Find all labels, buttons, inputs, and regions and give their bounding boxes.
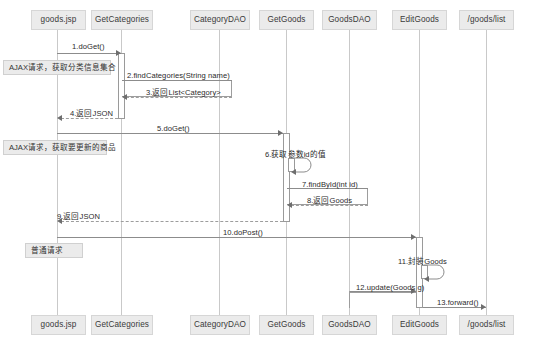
note-normal-request: 普通请求: [25, 243, 83, 258]
message-label-10: 10.doPost(): [223, 228, 263, 237]
message-label-5: 5.doGet(): [157, 124, 190, 133]
message-12-stem: [349, 291, 350, 308]
message-label-8: 8.返回Goods: [307, 196, 352, 205]
lifeline-goods-dao: [349, 30, 350, 315]
message-label-1: 1.doGet(): [72, 42, 105, 51]
participant-label: goods.jsp: [41, 320, 77, 330]
participant-label: /goods/list: [468, 15, 506, 25]
message-label-4: 4.返回JSON: [70, 109, 113, 118]
message-label-7: 7.findById(int id): [302, 180, 358, 189]
message-line-1: [57, 53, 121, 54]
note-label: AJAX请求，获取要更新的商品: [9, 142, 116, 153]
participant-footer-get-goods[interactable]: GetGoods: [259, 315, 314, 335]
message-label-12: 12.update(Goods g): [356, 283, 424, 292]
participant-label: /goods/list: [468, 320, 506, 330]
message-line-4: [61, 118, 118, 119]
message-arrow-13: [481, 304, 486, 310]
message-line-5: [57, 133, 283, 134]
participant-header-goods-dao[interactable]: GoodsDAO: [322, 10, 377, 30]
participant-header-goods-list[interactable]: /goods/list: [459, 10, 514, 30]
activation-get-goods: [283, 133, 290, 222]
lifeline-goods-list: [486, 30, 487, 315]
message-label-2: 2.findCategories(String name): [127, 71, 230, 80]
participant-label: EditGoods: [400, 15, 439, 25]
participant-footer-get-categories[interactable]: GetCategories: [91, 315, 153, 335]
note-label: 普通请求: [31, 245, 63, 256]
participant-header-goods-jsp[interactable]: goods.jsp: [31, 10, 86, 30]
message-label-11: 11.封装Goods: [398, 257, 447, 266]
participant-header-edit-goods[interactable]: EditGoods: [392, 10, 447, 30]
message-arrow-10: [411, 234, 416, 240]
participant-label: EditGoods: [400, 320, 439, 330]
participant-header-category-dao[interactable]: CategoryDAO: [190, 10, 250, 30]
message-line-9: [61, 221, 283, 222]
message-label-13: 13.forward(): [437, 298, 479, 307]
participant-label: CategoryDAO: [194, 15, 246, 25]
message-arrow-1: [116, 50, 121, 56]
participant-label: GoodsDAO: [328, 15, 371, 25]
message-arrow-5: [278, 130, 283, 136]
note-ajax-categories: AJAX请求，获取分类信息集合: [3, 60, 111, 75]
message-arrow-3: [122, 94, 127, 100]
message-label-3: 3.返回List<Category>: [146, 88, 221, 97]
participant-label: GetGoods: [267, 15, 305, 25]
participant-footer-goods-dao[interactable]: GoodsDAO: [322, 315, 377, 335]
participant-label: GetCategories: [95, 15, 149, 25]
message-line-2: [122, 80, 232, 81]
message-line-10: [57, 237, 416, 238]
participant-footer-goods-jsp[interactable]: goods.jsp: [31, 315, 86, 335]
participant-header-get-categories[interactable]: GetCategories: [91, 10, 153, 30]
message-arrow-4: [57, 115, 62, 121]
message-line-3: [126, 97, 232, 98]
participant-label: GetGoods: [267, 320, 305, 330]
message-line-13: [423, 307, 486, 308]
message-arrow-8: [287, 202, 292, 208]
note-label: AJAX请求，获取分类信息集合: [9, 62, 116, 73]
message-line-8: [291, 205, 368, 206]
participant-footer-edit-goods[interactable]: EditGoods: [392, 315, 447, 335]
message-label-6: 6.获取参数id的值: [265, 150, 326, 159]
participant-footer-category-dao[interactable]: CategoryDAO: [190, 315, 250, 335]
participant-label: goods.jsp: [41, 15, 77, 25]
participant-label: GetCategories: [95, 320, 149, 330]
message-label-9: 9.返回JSON: [57, 212, 100, 221]
sequence-diagram-canvas: goods.jsp GetCategories CategoryDAO GetG…: [0, 0, 535, 350]
participant-header-get-goods[interactable]: GetGoods: [259, 10, 314, 30]
participant-label: GoodsDAO: [328, 320, 371, 330]
participant-label: CategoryDAO: [194, 320, 246, 330]
participant-footer-goods-list[interactable]: /goods/list: [459, 315, 514, 335]
note-ajax-goods: AJAX请求，获取要更新的商品: [3, 140, 107, 155]
